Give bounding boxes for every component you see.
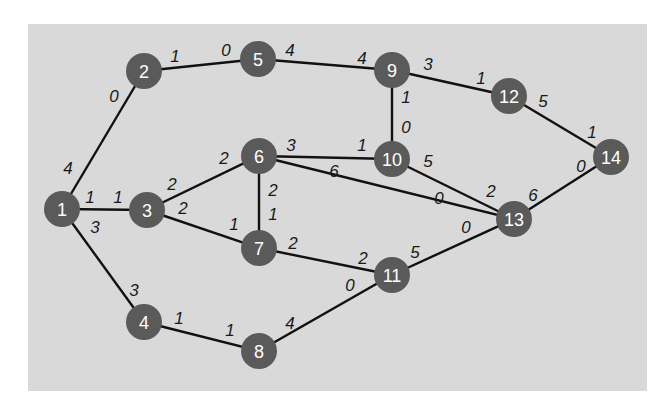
- edge-label-5-9-to: 4: [357, 49, 366, 68]
- edge-label-3-6-to: 2: [218, 149, 229, 168]
- edge-8-11: [259, 275, 392, 351]
- node-label: 7: [254, 239, 264, 259]
- node-label: 12: [499, 87, 519, 107]
- edge-label-12-14-from: 5: [538, 92, 548, 111]
- graph-canvas: 40113310442221213160103152225011405160 1…: [0, 0, 668, 413]
- edge-label-1-2-to: 0: [109, 87, 119, 106]
- edge-label-10-13-to: 2: [485, 182, 496, 201]
- edge-label-13-14-to: 0: [576, 157, 586, 176]
- edge-label-8-11-from: 4: [285, 314, 294, 333]
- node-6: 6: [241, 138, 277, 174]
- node-9: 9: [374, 52, 410, 88]
- edge-label-10-13-from: 5: [423, 152, 433, 171]
- edge-label-2-5-from: 1: [170, 47, 179, 66]
- node-label: 13: [504, 210, 524, 230]
- edge-label-1-4-to: 3: [129, 281, 139, 300]
- node-5: 5: [240, 41, 276, 77]
- node-label: 8: [254, 342, 264, 362]
- edge-label-6-10-from: 3: [286, 136, 296, 155]
- edge-label-12-14-to: 1: [587, 123, 596, 142]
- node-label: 3: [142, 201, 152, 221]
- edge-label-1-3-to: 1: [113, 188, 122, 207]
- node-14: 14: [593, 139, 629, 175]
- node-label: 6: [254, 147, 264, 167]
- node-label: 2: [139, 62, 149, 82]
- edge-label-1-4-from: 3: [90, 218, 100, 237]
- node-label: 5: [253, 50, 263, 70]
- edge-5-9: [258, 59, 392, 70]
- node-label: 11: [383, 266, 402, 286]
- edge-1-4: [62, 209, 144, 322]
- edge-label-6-13-to: 0: [434, 189, 444, 208]
- edge-label-9-12-from: 3: [423, 55, 433, 74]
- edge-label-11-13-from: 5: [410, 243, 420, 262]
- node-label: 1: [57, 200, 67, 220]
- edge-label-3-7-from: 2: [177, 199, 188, 218]
- edge-label-4-8-from: 1: [174, 309, 183, 328]
- edge-label-3-6-from: 2: [166, 175, 177, 194]
- node-label: 14: [601, 148, 621, 168]
- edge-7-11: [259, 248, 392, 275]
- edge-label-7-11-from: 2: [287, 234, 298, 253]
- edge-label-7-11-to: 2: [357, 249, 368, 268]
- node-10: 10: [374, 141, 410, 177]
- node-4: 4: [126, 304, 162, 340]
- edge-label-2-5-to: 0: [221, 41, 231, 60]
- edge-label-4-8-to: 1: [225, 321, 234, 340]
- node-7: 7: [241, 230, 277, 266]
- node-11: 11: [374, 257, 410, 293]
- node-13: 13: [496, 201, 532, 237]
- node-8: 8: [241, 333, 277, 369]
- node-label: 10: [382, 150, 402, 170]
- edge-1-2: [62, 71, 144, 209]
- node-3: 3: [129, 192, 165, 228]
- edge-3-6: [147, 156, 259, 210]
- edge-label-9-10-to: 0: [401, 118, 411, 137]
- edge-label-6-13-from: 6: [329, 162, 339, 181]
- edge-label-3-7-to: 1: [229, 215, 238, 234]
- edge-label-13-14-from: 6: [528, 186, 538, 205]
- edge-label-8-11-to: 0: [345, 276, 355, 295]
- node-label: 4: [139, 313, 149, 333]
- edge-label-6-10-to: 1: [357, 136, 366, 155]
- edge-label-9-12-to: 1: [476, 69, 485, 88]
- edge-label-1-2-from: 4: [63, 159, 72, 178]
- node-1: 1: [44, 191, 80, 227]
- edge-label-1-3-from: 1: [85, 188, 94, 207]
- node-label: 9: [387, 61, 397, 81]
- edge-label-9-10-from: 1: [401, 88, 410, 107]
- edge-label-11-13-to: 0: [461, 218, 471, 237]
- edge-label-6-7-from: 2: [267, 181, 278, 200]
- edge-label-6-7-to: 1: [268, 205, 277, 224]
- node-12: 12: [491, 78, 527, 114]
- node-2: 2: [126, 53, 162, 89]
- edge-label-5-9-from: 4: [285, 41, 294, 60]
- edge-6-10: [259, 156, 392, 159]
